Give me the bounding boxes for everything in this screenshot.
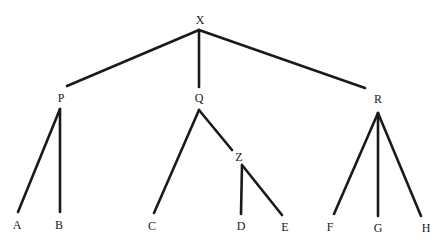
edge-x-p bbox=[67, 30, 199, 86]
edge-p-a bbox=[18, 109, 60, 212]
node-label-p: P bbox=[58, 91, 65, 105]
node-label-r: R bbox=[374, 92, 382, 106]
edges-layer bbox=[18, 30, 421, 216]
node-label-g: G bbox=[374, 221, 383, 235]
edge-r-h bbox=[378, 113, 421, 216]
node-label-q: Q bbox=[195, 91, 204, 105]
node-label-x: X bbox=[196, 13, 205, 27]
node-label-a: A bbox=[13, 218, 22, 232]
node-label-e: E bbox=[281, 220, 288, 234]
edge-z-d bbox=[241, 165, 242, 214]
edge-x-r bbox=[199, 30, 365, 88]
node-label-d: D bbox=[237, 219, 246, 233]
edge-r-f bbox=[334, 113, 378, 214]
node-label-z: Z bbox=[235, 150, 242, 164]
node-label-c: C bbox=[148, 219, 156, 233]
tree-diagram: XPQRZABCDEFGH bbox=[0, 0, 443, 246]
labels-layer: XPQRZABCDEFGH bbox=[13, 13, 431, 235]
edge-z-e bbox=[242, 165, 282, 215]
node-label-b: B bbox=[55, 218, 63, 232]
edge-q-c bbox=[154, 110, 199, 213]
node-label-f: F bbox=[327, 220, 334, 234]
edge-q-z bbox=[199, 110, 232, 150]
node-label-h: H bbox=[422, 221, 431, 235]
